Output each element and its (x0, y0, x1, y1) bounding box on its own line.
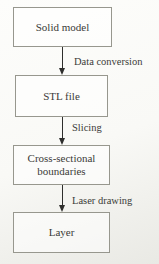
arrow-head-icon (59, 205, 65, 212)
arrow-shaft (62, 47, 64, 70)
node-cross-sectional-boundaries: Cross-sectional boundaries (13, 145, 110, 185)
flowchart-diagram: Solid model Data conversion STL file Sli… (0, 0, 159, 264)
node-layer-label: Layer (49, 226, 75, 239)
node-stl-file: STL file (15, 75, 108, 117)
down-arrow-1 (59, 47, 66, 75)
down-arrow-3 (59, 185, 66, 212)
node-cross-sectional-boundaries-label: Cross-sectional boundaries (20, 152, 103, 178)
down-arrow-2 (59, 117, 66, 145)
arrow-head-icon (59, 138, 65, 145)
edge-label-data-conversion: Data conversion (74, 56, 143, 68)
node-layer: Layer (13, 212, 110, 253)
edge-label-slicing: Slicing (72, 122, 102, 134)
node-solid-model: Solid model (13, 7, 112, 47)
arrow-shaft (62, 185, 64, 207)
arrow-shaft (62, 117, 64, 140)
edge-label-laser-drawing: Laser drawing (72, 195, 132, 207)
node-stl-file-label: STL file (43, 90, 80, 103)
arrow-head-icon (59, 68, 65, 75)
node-solid-model-label: Solid model (36, 21, 89, 34)
